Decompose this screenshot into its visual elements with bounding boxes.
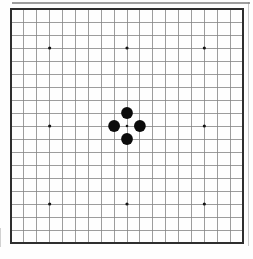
black-stone[interactable] [121,107,133,119]
star-point [125,46,128,49]
black-stone[interactable] [108,120,120,132]
star-point [48,46,51,49]
star-point [48,202,51,205]
star-point [125,202,128,205]
star-point [48,124,51,127]
go-board[interactable] [0,0,253,259]
star-point [203,46,206,49]
black-stone[interactable] [134,120,146,132]
black-stone[interactable] [121,133,133,145]
star-point [126,125,129,128]
go-diagram-page [0,0,253,259]
star-point [203,124,206,127]
star-point [203,202,206,205]
